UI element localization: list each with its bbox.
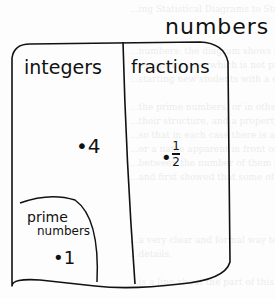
numbers-set-outline <box>12 42 230 288</box>
diagram-outlines <box>0 0 275 299</box>
prime-member-one: •1 <box>53 247 75 268</box>
dot-marker: • <box>161 147 172 168</box>
diagram-title: numbers <box>165 14 269 39</box>
fraction-member-one-half: 1 2 <box>172 140 180 168</box>
venn-diagram-canvas: ...ing Statistical Diagrams to Students … <box>0 0 275 299</box>
denominator: 2 <box>172 155 180 169</box>
fractions-label: fractions <box>131 56 210 77</box>
integers-fractions-divider <box>123 42 135 284</box>
integers-label: integers <box>24 56 102 78</box>
integer-member-four: •4 <box>76 134 101 158</box>
dot-marker: • <box>76 134 88 158</box>
prime-numbers-label: prime numbers <box>27 210 90 238</box>
dot-marker: • <box>53 247 64 268</box>
numerator: 1 <box>172 139 180 153</box>
